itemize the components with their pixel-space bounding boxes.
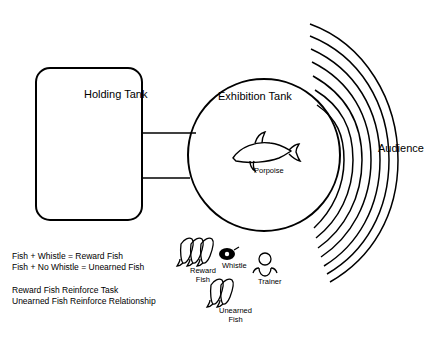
equation-line-2: Fish + No Whistle = Unearned Fish [12,262,144,273]
trainer-label: Trainer [258,277,281,286]
equation-block: Fish + Whistle = Reward Fish Fish + No W… [12,251,144,272]
reward-fish-label-line1: Reward [190,266,216,275]
trainer-icon [253,253,277,276]
unearned-fish-label-line2: Fish [219,315,252,324]
exhibition-tank-label: Exhibition Tank [218,90,292,104]
reward-fish-label-line2: Fish [190,275,216,284]
reward-fish-label: Reward Fish [190,266,216,285]
unearned-fish-label: Unearned Fish [219,306,252,325]
diagram-canvas: Holding Tank Exhibition Tank Audience Po… [0,0,442,338]
equation-line-1: Fish + Whistle = Reward Fish [12,251,144,262]
whistle-label: Whistle [222,261,247,270]
unearned-fish-label-line1: Unearned [219,306,252,315]
task-line-2: Unearned Fish Reinforce Relationship [12,296,156,307]
porpoise-label: Porpoise [254,166,284,175]
reward-fish-icon [177,238,213,266]
task-block: Reward Fish Reinforce Task Unearned Fish… [12,285,156,306]
holding-tank-label: Holding Tank [84,88,147,102]
whistle-icon [219,247,239,260]
audience-label: Audience [378,142,424,156]
task-line-1: Reward Fish Reinforce Task [12,285,156,296]
